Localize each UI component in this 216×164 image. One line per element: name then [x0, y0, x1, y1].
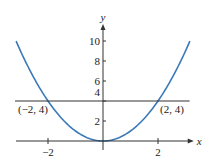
y-axis-label: y — [100, 11, 106, 23]
x-axis-arrow-icon — [188, 139, 194, 144]
x-tick-label: 2 — [155, 146, 161, 158]
y-tick-label: 10 — [89, 35, 101, 47]
y-axis-arrow-icon — [101, 24, 106, 30]
point-annotation: (−2, 4) — [18, 103, 48, 116]
y-tick-label: 8 — [95, 55, 101, 67]
point-annotation: (2, 4) — [160, 103, 184, 116]
x-tick-label: −2 — [42, 146, 54, 158]
x-axis-label: x — [196, 135, 202, 147]
y-tick-label: 6 — [95, 75, 101, 87]
y-tick-label: 4 — [95, 86, 101, 98]
y-tick-label: 2 — [95, 115, 101, 127]
parabola-chart: xy−22246810(−2, 4)(2, 4) — [0, 0, 216, 164]
